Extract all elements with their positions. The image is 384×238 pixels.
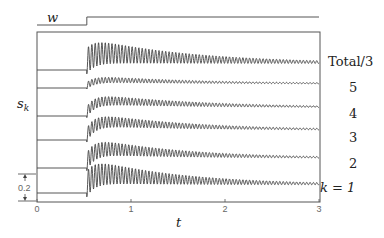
trace-3: [37, 117, 319, 142]
input-step-w: [37, 17, 319, 25]
x-tick-label: 1: [129, 204, 134, 214]
series-label-k1: k = 1: [320, 180, 355, 195]
x-tick-label: 3: [317, 204, 322, 214]
series-label-2: 2: [349, 156, 357, 171]
series-label-total: Total/3: [328, 54, 373, 69]
series-label-4: 4: [349, 106, 357, 121]
scale-bar-label: 0.2: [18, 183, 31, 193]
stacked-response-plot: w Total/3 5 4 3 2 k = 1 sk 0.2 0123 t: [0, 0, 384, 238]
series-label-3: 3: [349, 130, 357, 145]
scale-bar: 0.2: [18, 174, 36, 201]
trace-4: [37, 97, 319, 118]
series-labels: Total/3 5 4 3 2 k = 1: [320, 54, 373, 195]
x-tick-label: 2: [223, 204, 228, 214]
trace-5: [37, 77, 319, 89]
w-label: w: [47, 10, 58, 25]
trace-2: [37, 142, 319, 170]
x-tick-label: 0: [35, 204, 40, 214]
x-axis-ticks: 0123: [35, 199, 322, 214]
x-axis-label: t: [176, 215, 182, 230]
series-label-5: 5: [349, 80, 357, 95]
trace-total-3: [37, 43, 319, 74]
y-axis-label: sk: [17, 96, 29, 113]
traces: [37, 43, 319, 197]
trace-k-1: [37, 164, 319, 197]
